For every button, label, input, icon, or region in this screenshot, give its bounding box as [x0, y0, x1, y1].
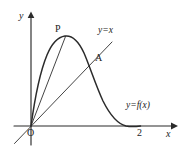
point-label-a: A [95, 53, 102, 63]
x-tick-label-2: 2 [137, 128, 142, 138]
function-graph-figure: y x O 2 P A y=x y=f(x) [0, 0, 182, 147]
y-axis-label: y [19, 11, 23, 21]
identity-line-label: y=x [98, 26, 113, 36]
point-label-p: P [55, 24, 61, 34]
x-axis [14, 123, 178, 130]
x-axis-arrow-icon [171, 123, 178, 130]
y-axis-arrow-icon [28, 12, 35, 19]
chord-segment-O-to-P [31, 37, 66, 127]
function-curve-y-equals-f-x [31, 36, 141, 127]
origin-label: O [27, 128, 34, 138]
function-curve-label: y=f(x) [126, 101, 150, 111]
x-axis-label: x [166, 129, 170, 139]
graph-canvas [0, 0, 182, 147]
